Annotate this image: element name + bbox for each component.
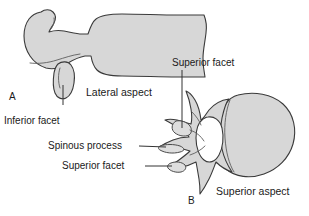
panel-a-caption: Lateral aspect xyxy=(86,87,152,98)
panel-b-caption: Superior aspect xyxy=(216,186,290,197)
inferior-articular-facet xyxy=(53,62,74,99)
panel-b-superior-vertebra xyxy=(139,70,295,194)
superior-articular-facet-lower xyxy=(168,162,186,172)
vertebra-illustration xyxy=(0,0,309,216)
panel-b-letter: B xyxy=(188,196,195,206)
label-superior-facet-top: Superior facet xyxy=(172,58,234,68)
label-superior-facet-lower: Superior facet xyxy=(62,161,124,171)
figure-canvas: A Lateral aspect Inferior facet Superior… xyxy=(0,0,309,216)
panel-a-letter: A xyxy=(9,92,16,102)
label-spinous-process: Spinous process xyxy=(48,141,122,151)
spinous-process-tip xyxy=(159,145,184,154)
label-inferior-facet: Inferior facet xyxy=(4,116,60,126)
